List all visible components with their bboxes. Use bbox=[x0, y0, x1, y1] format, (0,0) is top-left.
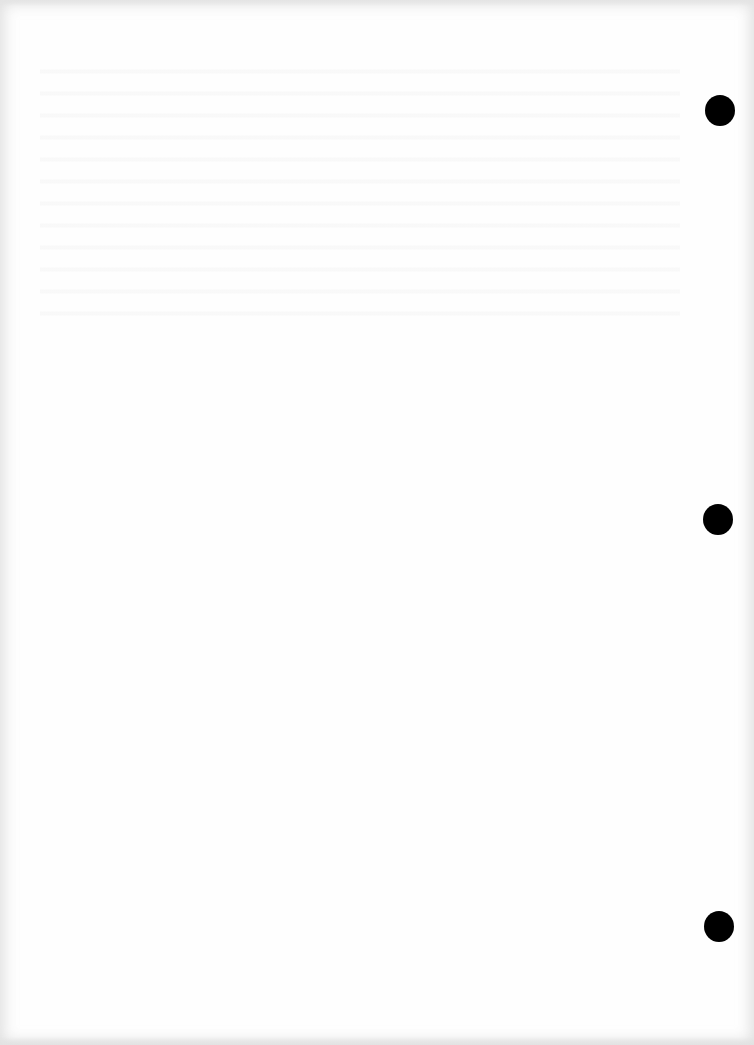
punch-hole-middle bbox=[703, 504, 733, 535]
punch-hole-bottom bbox=[704, 911, 734, 942]
scan-edge-top bbox=[0, 0, 754, 6]
blank-document-page bbox=[0, 0, 754, 1045]
scan-edge-bottom bbox=[0, 1037, 754, 1045]
faint-bleed-through bbox=[40, 60, 680, 320]
punch-hole-top bbox=[705, 95, 735, 126]
